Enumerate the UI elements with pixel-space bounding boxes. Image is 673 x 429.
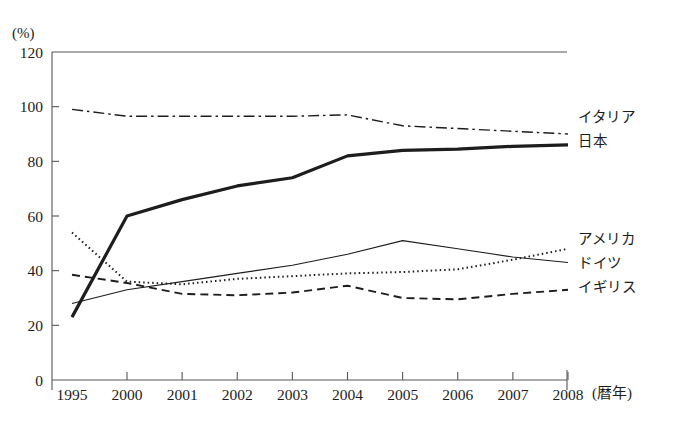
series-line-3 (72, 241, 568, 304)
x-tick-label: 2000 (112, 386, 143, 403)
x-axis: 1995200020012002200320042005200620072008 (57, 372, 584, 403)
series-line-0 (72, 109, 568, 134)
x-tick-label: 2007 (497, 386, 528, 403)
x-tick-label: 2002 (222, 386, 253, 403)
x-tick-label: 1995 (57, 386, 88, 403)
legend: イタリア日本アメリカドイツイギリス (578, 109, 636, 295)
x-tick-label: 2004 (332, 386, 363, 403)
legend-label-日本: 日本 (578, 133, 607, 149)
x-tick-label: 2001 (167, 386, 198, 403)
y-axis: 020406080100120 (20, 44, 59, 389)
y-tick-label: 20 (28, 317, 44, 334)
line-chart-figure: (%) 020406080100120 19952000200120022003… (0, 0, 673, 429)
x-tick-label: 2008 (553, 386, 584, 403)
legend-label-ドイツ: ドイツ (578, 255, 622, 271)
x-axis-caption: (暦年) (592, 385, 632, 402)
y-tick-label: 80 (28, 153, 44, 170)
x-tick-label: 2003 (277, 386, 308, 403)
plot-frame (52, 52, 567, 390)
chart-canvas: (%) 020406080100120 19952000200120022003… (0, 0, 673, 429)
y-tick-label: 40 (28, 262, 44, 279)
x-tick-label: 2006 (442, 386, 473, 403)
y-tick-label: 120 (20, 44, 44, 61)
series-line-2 (72, 232, 568, 284)
y-unit-label: (%) (12, 25, 35, 42)
x-tick-label: 2005 (387, 386, 418, 403)
y-tick-label: 0 (35, 372, 43, 389)
y-tick-label: 100 (20, 98, 44, 115)
footer-caption-strip (0, 412, 673, 429)
legend-label-アメリカ: アメリカ (578, 231, 635, 247)
y-tick-label: 60 (28, 208, 44, 225)
series-line-1 (72, 145, 568, 317)
legend-label-イタリア: イタリア (578, 109, 635, 125)
legend-label-イギリス: イギリス (578, 279, 636, 295)
data-series-group (72, 109, 568, 317)
axis-frame (52, 52, 567, 390)
